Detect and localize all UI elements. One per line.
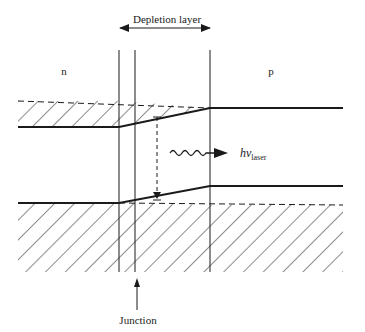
depletion-layer-label: Depletion layer: [133, 13, 201, 25]
junction-label: Junction: [119, 314, 157, 326]
photon-energy-label: hνlaser: [240, 146, 267, 162]
valence-band-edge: [18, 186, 343, 203]
p-region-label: p: [268, 65, 274, 77]
photon-emission-arrow: [170, 148, 228, 158]
recombination-transition-arrow: [153, 117, 161, 200]
junction-pointer-arrow: [134, 278, 140, 310]
n-region-label: n: [61, 65, 67, 77]
valence-band-filled-region: [18, 203, 343, 272]
pn-junction-laser-diagram: Depletion layer n p hνlaser Junction: [0, 0, 365, 332]
